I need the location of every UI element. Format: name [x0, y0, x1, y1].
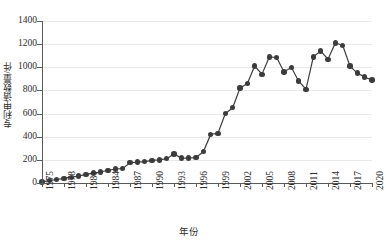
x-tick-label: 1990 — [156, 171, 166, 190]
data-point — [281, 69, 286, 74]
y-tick-label: 600 — [23, 109, 37, 119]
data-point — [179, 155, 184, 160]
series-line — [42, 21, 372, 183]
y-tick-label: 1400 — [18, 16, 37, 26]
data-point — [289, 65, 294, 70]
x-tick-label: 1987 — [134, 171, 144, 190]
x-tick-label: 1978 — [68, 171, 78, 190]
x-tick-mark — [240, 183, 241, 187]
x-axis-title: 年份 — [0, 224, 378, 238]
data-point — [303, 87, 308, 92]
data-point — [157, 157, 162, 162]
x-tick-mark — [108, 183, 109, 187]
x-tick-mark — [152, 183, 153, 187]
y-tick-label: 200 — [23, 155, 37, 165]
x-tick-mark — [218, 183, 219, 187]
y-tick-label: 800 — [23, 85, 37, 95]
x-tick-label: 1984 — [112, 171, 122, 190]
x-tick-label: 2008 — [288, 171, 298, 190]
data-point — [193, 155, 198, 160]
y-axis-title: 专利申请数量/件 — [3, 62, 16, 128]
x-tick-mark — [262, 183, 263, 187]
x-tick-label: 2002 — [244, 171, 254, 190]
x-tick-mark — [130, 183, 131, 187]
x-tick-label: 1981 — [90, 171, 100, 190]
data-point — [171, 151, 176, 156]
data-point — [149, 158, 154, 163]
data-point — [325, 57, 330, 62]
x-tick-label: 2020 — [376, 171, 386, 190]
x-tick-label: 2005 — [266, 171, 276, 190]
data-series — [42, 21, 372, 183]
data-point — [311, 54, 316, 59]
y-tick-label: 400 — [23, 132, 37, 142]
data-point — [259, 72, 264, 77]
data-point — [83, 172, 88, 177]
x-tick-mark — [328, 183, 329, 187]
x-tick-label: 2011 — [310, 171, 320, 190]
y-axis-line — [42, 21, 43, 183]
data-point — [347, 63, 352, 68]
x-tick-label: 1996 — [200, 171, 210, 190]
y-tick-mark — [37, 114, 42, 115]
data-point — [267, 54, 272, 59]
y-tick-mark — [37, 137, 42, 138]
y-tick-mark — [37, 160, 42, 161]
y-tick-label: 1000 — [18, 62, 37, 72]
data-point — [333, 40, 338, 45]
x-tick-mark — [284, 183, 285, 187]
x-tick-label: 2014 — [332, 171, 342, 190]
data-point — [135, 159, 140, 164]
x-tick-mark — [350, 183, 351, 187]
x-tick-mark — [196, 183, 197, 187]
data-point — [237, 85, 242, 90]
x-tick-mark — [64, 183, 65, 187]
x-tick-mark — [86, 183, 87, 187]
data-point — [369, 77, 374, 82]
y-tick-mark — [37, 44, 42, 45]
data-point — [105, 168, 110, 173]
y-tick-mark — [37, 90, 42, 91]
x-tick-mark — [174, 183, 175, 187]
y-tick-label: 1200 — [18, 39, 37, 49]
x-tick-label: 1975 — [46, 171, 56, 190]
y-tick-label: 0 — [32, 178, 37, 188]
x-tick-mark — [42, 183, 43, 187]
data-point — [61, 176, 66, 181]
x-tick-label: 1999 — [222, 171, 232, 190]
y-tick-mark — [37, 67, 42, 68]
x-tick-mark — [372, 183, 373, 187]
x-tick-mark — [306, 183, 307, 187]
plot-area — [42, 21, 372, 183]
data-point — [355, 70, 360, 75]
data-point — [215, 131, 220, 136]
x-tick-label: 2017 — [354, 171, 364, 190]
x-tick-label: 1993 — [178, 171, 188, 190]
y-tick-mark — [37, 21, 42, 22]
